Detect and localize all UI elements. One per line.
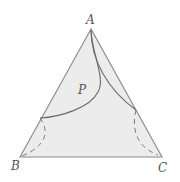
vertex-label-b: B [10, 159, 20, 173]
vertex-label-a: A [85, 13, 95, 27]
triangle-region [20, 29, 162, 157]
ternary-diagram: A B C P [0, 0, 180, 182]
vertex-label-c: C [158, 161, 167, 175]
region-label-p: P [77, 83, 87, 97]
